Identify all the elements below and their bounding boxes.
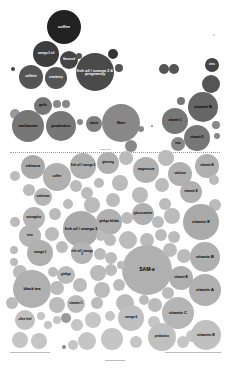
bubble [213,34,215,36]
footer-right-text [165,352,221,353]
bubble-label: garlic [39,104,47,107]
bubble-label: iron [175,142,181,145]
bubble: vitamin B [188,92,218,122]
bubble [132,187,148,203]
bubble-label: omega 3 [34,251,46,254]
bubble: ginseng [97,152,119,174]
bubble-label: coffee [58,25,70,28]
bubble-label: flaxseed [63,58,75,61]
bubble [50,281,64,295]
bubble-label: black tea [23,287,40,290]
bubble-label: zinc [27,234,33,237]
bubble-label: vitamin A [196,288,214,291]
bubble: zinc [205,58,219,72]
bubble: vitamin B [190,242,220,272]
bubble: coffee [47,10,81,44]
bubble [130,336,142,348]
bubble [78,332,96,350]
bubble: black tea [13,270,51,308]
bubble [113,279,125,291]
bubble: fish oil / omega 3 [70,153,96,179]
bubble: vitamin C [162,108,188,134]
bubble [214,133,220,139]
bubble: selenium [34,188,52,206]
bubble [49,208,61,220]
bubble [152,216,164,228]
bubble: flaxseed [60,51,78,69]
bubble: magnesium [133,157,159,183]
bubble [212,121,220,129]
bubble [53,100,61,108]
bubble: vitamin C [67,295,85,313]
bubble-label: SAM-e [139,268,155,271]
bubble: niacin [86,116,102,132]
bubble-label: vitamin B [194,105,212,108]
bubble [177,249,191,263]
footer-left-text [10,352,50,353]
bubble [163,243,177,257]
bubble [96,231,106,241]
bubble [169,64,179,74]
bubble [115,64,123,72]
bubble [148,298,162,312]
bubble-label: olive leaf [19,318,32,321]
bubble-label: vitamin C [69,302,83,305]
bubble [44,321,52,329]
bubble [70,180,82,192]
bubble-label: vitamin E [184,190,197,193]
bubble: fish oil / omega 3 & pregnancy [76,53,114,91]
bubble [119,231,137,249]
bubble [119,151,133,165]
bubble [106,193,120,207]
evidence-divider-line [10,152,220,153]
bubble [49,297,65,313]
bubble [37,312,45,320]
bubble [117,261,125,269]
bubble [101,328,123,350]
bubble-label: melatonin [19,124,38,127]
bubble [6,297,18,309]
bubble [84,197,100,213]
bubble [91,297,103,309]
bubble-label: fish oil / omega 3 & pregnancy [76,69,114,75]
bubble: probiotics [148,323,176,351]
bubble [151,125,153,127]
bubble: cranberry [45,67,67,89]
bubble-label: vitamin B [200,164,214,167]
bubble [85,312,101,328]
bubble-label: probiotics [51,124,70,127]
bubble-label: probiotics [155,335,170,338]
bubble-label: zinc [209,63,215,66]
bubble [168,231,180,243]
bubble: coffee [43,163,71,191]
bubble [31,333,47,349]
bubble: fiber [102,104,140,142]
bubble: vitamin E [183,204,219,240]
bubble [11,67,15,71]
bubble-label: niacin [90,122,99,125]
bubble-label: cranberry [49,76,63,79]
bubble [94,178,104,188]
bubble-label: astragalus [26,216,41,219]
bubble-label: fish oil / omega 3 [71,250,93,256]
bubble-label: omega 6 [125,316,137,319]
bubble-label: fish oil / omega 3 [65,227,97,230]
bubble [105,311,115,321]
bubble: vitamin A [189,274,221,306]
bubble-label: magnesium [138,168,155,171]
bubble-label: coffee [53,175,62,178]
bubble: omega-3 oil [33,41,59,67]
bubble: fish oil / omega 3 [71,242,93,264]
bubble-label: vitamin C [169,311,187,314]
bubble: glucosamine [132,203,154,225]
bubble [94,282,110,298]
bubble-label: ginseng [102,161,114,164]
bubble-label: ginkgo biloba [99,220,119,223]
bubble: olive leaf [15,310,35,330]
bubble [71,319,83,331]
bubble [61,313,71,323]
bubble [53,316,61,324]
bubble-label: fiber [117,121,126,124]
bubble-label: vitamin C [168,119,182,122]
bubble: vitamin D [184,125,210,151]
